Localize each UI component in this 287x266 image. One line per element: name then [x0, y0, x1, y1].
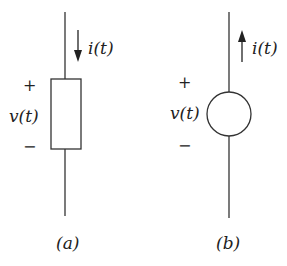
- arrowhead-down-icon: [74, 50, 82, 62]
- element-b: i(t) + v(t) − (b): [170, 12, 278, 253]
- element-a: i(t) + v(t) − (a): [9, 12, 114, 253]
- current-label-a: i(t): [88, 38, 114, 58]
- caption-b: (b): [216, 233, 240, 253]
- source-circle: [207, 92, 251, 136]
- circuit-figure: i(t) + v(t) − (a) i(t) + v(t) − (b): [0, 0, 287, 266]
- arrowhead-up-icon: [238, 30, 246, 42]
- voltage-label-b: v(t): [170, 103, 200, 123]
- minus-sign-b: −: [178, 136, 191, 155]
- plus-sign-a: +: [23, 76, 36, 95]
- plus-sign-b: +: [178, 73, 191, 92]
- minus-sign-a: −: [23, 137, 36, 156]
- current-label-b: i(t): [252, 38, 278, 58]
- caption-a: (a): [56, 233, 79, 253]
- circuit-diagram-svg: i(t) + v(t) − (a) i(t) + v(t) − (b): [0, 0, 287, 266]
- voltage-label-a: v(t): [9, 106, 39, 126]
- generic-element-box: [51, 79, 81, 149]
